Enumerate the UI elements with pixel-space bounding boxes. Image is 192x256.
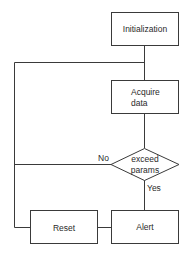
acquire-data-box (112, 81, 179, 114)
decision-label-line1: exceed (131, 154, 159, 164)
edge-label-yes: Yes (147, 183, 161, 193)
node-reset: Reset (31, 211, 98, 244)
acquire-data-label-line2: data (131, 98, 148, 108)
node-acquire-data: Acquire data (112, 81, 179, 114)
decision-label-line2: params (131, 165, 159, 175)
flowchart-diagram: Initialization Acquire data exceed param… (0, 0, 192, 256)
alert-label: Alert (136, 222, 154, 232)
node-initialization: Initialization (112, 13, 179, 46)
node-alert: Alert (112, 211, 179, 244)
reset-label: Reset (53, 223, 76, 233)
node-decision: exceed params (111, 149, 179, 181)
edges (15, 45, 145, 228)
edge-label-no: No (98, 153, 109, 163)
initialization-label: Initialization (123, 24, 168, 34)
acquire-data-label-line1: Acquire (131, 87, 160, 97)
